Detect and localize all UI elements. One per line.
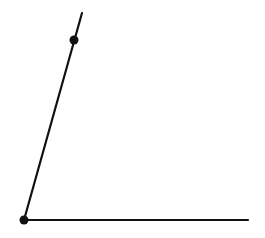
ray-point xyxy=(70,36,79,45)
vertex-point xyxy=(20,216,29,225)
angle-diagram xyxy=(0,0,265,238)
